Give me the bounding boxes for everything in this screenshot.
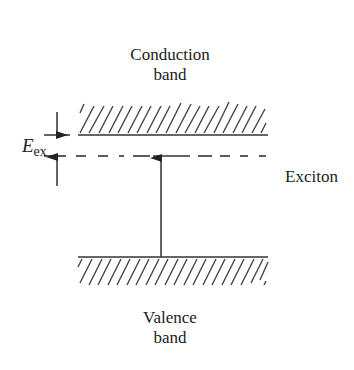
conduction-label-line1: Conduction xyxy=(110,45,230,65)
conduction-label-line2: band xyxy=(110,65,230,85)
band-diagram: Conduction band Eex Exciton Valence band xyxy=(0,0,354,370)
valence-label-line1: Valence xyxy=(110,308,230,328)
valence-band-label: Valence band xyxy=(110,308,230,348)
conduction-band-label: Conduction band xyxy=(110,45,230,85)
exciton-label: Exciton xyxy=(285,167,338,187)
valence-label-line2: band xyxy=(110,328,230,348)
conduction-band-hatching xyxy=(80,102,266,133)
energy-gap-indicator xyxy=(44,112,70,186)
energy-subscript: ex xyxy=(34,144,47,159)
exciton-energy-label: Eex xyxy=(22,136,47,162)
valence-band-hatching xyxy=(78,259,268,285)
energy-symbol: E xyxy=(22,135,34,156)
